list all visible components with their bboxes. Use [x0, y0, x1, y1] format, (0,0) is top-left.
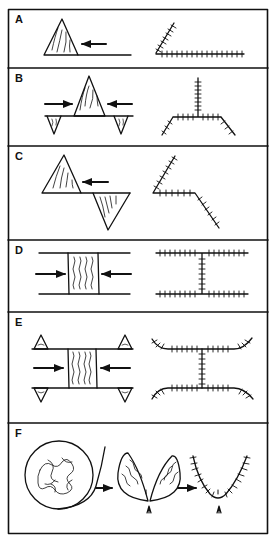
diagram-canvas — [0, 0, 275, 541]
arrowhead-marker-icon — [217, 506, 221, 513]
suture-diagram-figure: A B C D E F — [0, 0, 275, 541]
arrowhead-marker-icon — [147, 506, 151, 513]
panel-f-suture — [190, 456, 250, 513]
panel-a-wedge — [44, 19, 131, 55]
panel-e-block — [32, 335, 133, 402]
panel-c-suture — [153, 156, 219, 228]
panel-d-block — [36, 253, 131, 294]
outer-frame — [9, 10, 268, 534]
panel-b-suture — [162, 78, 235, 135]
panel-d-suture — [156, 250, 248, 297]
panel-f-wedges — [118, 453, 196, 513]
panel-b-wedges — [45, 76, 133, 134]
panel-f-circle — [25, 441, 112, 509]
panel-e-suture — [152, 338, 253, 399]
panel-a-suture — [156, 23, 244, 57]
panel-c-wedges — [42, 155, 130, 230]
